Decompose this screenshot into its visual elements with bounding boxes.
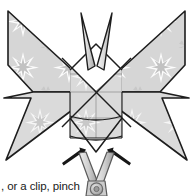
diagram-page: , or a clip, pinch: [0, 0, 193, 196]
antenna-right: [97, 13, 112, 70]
step-caption: , or a clip, pinch: [1, 180, 80, 193]
origami-butterfly-figure: [0, 0, 193, 196]
clip-pivot-inner-icon: [94, 186, 99, 191]
body-panel-group: [64, 60, 128, 160]
antennae-group: [81, 13, 112, 70]
antenna-left: [81, 13, 95, 70]
clip-group: [79, 152, 114, 196]
fold-peak: [70, 44, 122, 70]
